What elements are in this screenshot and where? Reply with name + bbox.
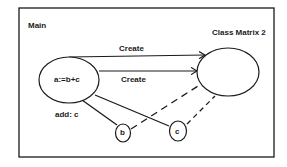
edge-a-to-c: [95, 95, 169, 126]
node-c-label: c: [175, 128, 179, 136]
frame-label-main: Main: [28, 22, 46, 30]
class-matrix-2-ellipse[interactable]: [197, 48, 259, 96]
class-matrix-2-label: Class Matrix 2: [212, 29, 266, 37]
create-edge-top: [69, 55, 205, 57]
dashed-edge-c-to-matrix: [187, 96, 215, 124]
node-b-label: b: [120, 129, 125, 137]
source-node-label: a:=b+c: [54, 76, 80, 84]
create-label-top: Create: [119, 45, 144, 53]
diagram-canvas: Main Class Matrix 2 Create Create a:=b+c…: [0, 0, 287, 167]
add-c-label: add: c: [55, 111, 79, 119]
create-label-bottom: Create: [121, 76, 146, 84]
edge-a-to-b: [82, 100, 117, 125]
